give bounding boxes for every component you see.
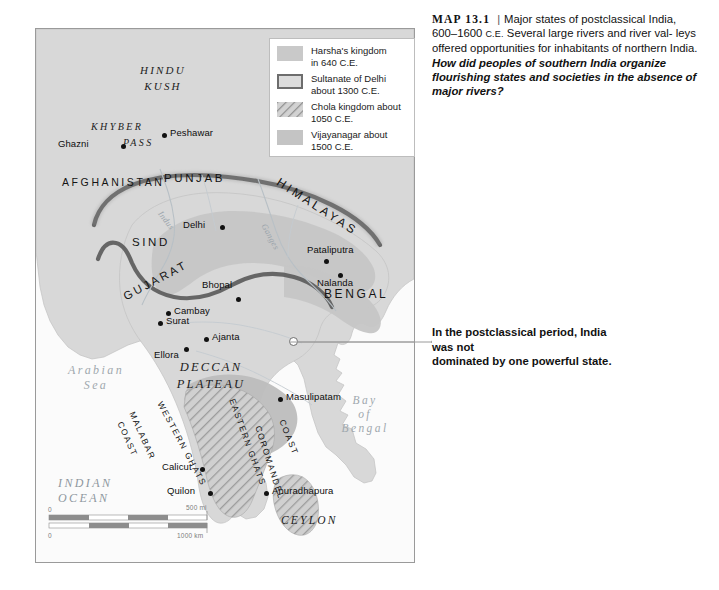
- scale-label-km-start: 0: [48, 532, 52, 539]
- caption-line4a: India.: [670, 42, 698, 54]
- caption-line2b: Several large rivers and river val-: [504, 27, 673, 39]
- city-label-ghazni: Ghazni: [58, 138, 89, 149]
- legend-text-vijayanagar: Vijayanagar about 1500 C.E.: [311, 129, 387, 152]
- legend-chola-line1: Chola kingdom about: [311, 101, 401, 113]
- map-label-khyber: KHYBER: [91, 121, 143, 132]
- map-label-afghanistan: AFGHANISTAN: [62, 176, 165, 188]
- legend-harsha-line2: in 640 C.E.: [311, 57, 387, 69]
- legend-chola-line2: 1050 C.E.: [311, 113, 401, 125]
- city-label-ellora: Ellora: [154, 349, 179, 360]
- city-label-bhopal: Bhopal: [202, 279, 232, 290]
- map-label-pass: PASS: [123, 137, 154, 148]
- city-dot-anuradhapura: [264, 491, 269, 496]
- arabian-sea-line2: Sea: [50, 378, 142, 393]
- legend-text-chola: Chola kingdom about 1050 C.E.: [311, 101, 401, 124]
- legend-harsha-line1: Harsha's kingdom: [311, 45, 387, 57]
- legend-swatch-harsha-icon: [277, 46, 303, 61]
- legend-text-sultanate: Sultanate of Delhi about 1300 C.E.: [311, 73, 386, 96]
- legend-item-sultanate: Sultanate of Delhi about 1300 C.E.: [277, 73, 408, 96]
- deccan-line1: DECCAN: [161, 359, 261, 376]
- legend-swatch-vijayanagar-icon: [277, 130, 303, 145]
- caption-era: C.E.: [485, 29, 503, 39]
- city-dot-bhopal: [236, 297, 241, 302]
- map-figure: HINDU KUSH KHYBER PASS DECCAN PLATEAU CE…: [0, 0, 719, 590]
- legend-item-chola: Chola kingdom about 1050 C.E.: [277, 101, 408, 124]
- city-label-anuradhapura: Anuradhapura: [272, 485, 333, 496]
- legend-item-harsha: Harsha's kingdom in 640 C.E.: [277, 45, 408, 68]
- legend-text-harsha: Harsha's kingdom in 640 C.E.: [311, 45, 387, 68]
- arabian-sea-line1: Arabian: [50, 363, 142, 378]
- legend-hatch-icon: [277, 102, 303, 117]
- caption-question: How did peoples of southern India organi…: [432, 57, 696, 97]
- city-dot-calicut: [200, 467, 205, 472]
- city-label-peshawar: Peshawar: [170, 127, 213, 138]
- city-label-delhi: Delhi: [183, 219, 205, 230]
- map-label-ceylon: CEYLON: [281, 514, 338, 526]
- map-label-arabian-sea: Arabian Sea: [50, 363, 142, 393]
- legend-vijayanagar-line1: Vijayanagar about: [311, 129, 387, 141]
- map-annotation: In the postclassical period, India was n…: [432, 325, 612, 369]
- city-dot-ajanta: [204, 337, 209, 342]
- legend-swatch-chola-icon: [277, 102, 303, 117]
- city-dot-ghazni: [121, 144, 126, 149]
- scale-label-miles-end: 500 mi: [186, 504, 207, 511]
- bay-line3: Bengal: [326, 421, 404, 435]
- city-label-surat: Surat: [166, 315, 189, 326]
- hindu-kush-line2: KUSH: [118, 78, 208, 94]
- map-label-indian-ocean: INDIAN OCEAN: [58, 476, 158, 506]
- city-label-calicut: Calicut: [162, 461, 192, 472]
- annotation-connector: [290, 340, 432, 343]
- legend-sultanate-line2: about 1300 C.E.: [311, 85, 386, 97]
- city-dot-quilon: [208, 491, 213, 496]
- city-dot-masulipatam: [278, 397, 283, 402]
- map-label-bengal: BENGAL: [324, 287, 388, 301]
- scale-label-miles-start: 0: [48, 506, 52, 513]
- deccan-line2: PLATEAU: [161, 376, 261, 393]
- city-dot-ellora: [184, 347, 189, 352]
- map-label-sind: SIND: [132, 236, 170, 248]
- legend-item-vijayanagar: Vijayanagar about 1500 C.E.: [277, 129, 408, 152]
- legend-vijayanagar-line2: 1500 C.E.: [311, 141, 387, 153]
- caption-line1: Major states of postclassical: [504, 13, 645, 25]
- caption-map-number: MAP 13.1: [432, 13, 490, 25]
- map-legend: Harsha's kingdom in 640 C.E. Sultanate o…: [269, 38, 415, 157]
- city-label-pataliputra: Pataliputra: [307, 244, 354, 255]
- city-dot-surat: [158, 321, 163, 326]
- figure-caption: MAP 13.1|Major states of postclassical I…: [432, 12, 704, 98]
- city-label-masulipatam: Masulipatam: [286, 391, 341, 402]
- city-dot-delhi: [220, 225, 225, 230]
- city-dot-peshawar: [162, 133, 167, 138]
- scale-label-km-end: 1000 km: [177, 532, 203, 539]
- annotation-line1: In the postclassical period, India was n…: [432, 325, 612, 354]
- legend-swatch-sultanate-icon: [277, 74, 303, 89]
- map-label-deccan-plateau: DECCAN PLATEAU: [161, 359, 261, 393]
- bay-line2: of: [326, 407, 404, 421]
- map-label-punjab: PUNJAB: [164, 172, 225, 184]
- city-label-quilon: Quilon: [167, 485, 195, 496]
- legend-sultanate-line1: Sultanate of Delhi: [311, 73, 386, 85]
- hindu-kush-line1: HINDU: [118, 62, 208, 78]
- city-label-ajanta: Ajanta: [212, 331, 240, 342]
- city-dot-pataliputra: [324, 259, 329, 264]
- indian-ocean-line1: INDIAN: [58, 476, 158, 491]
- city-label-nalanda: Nalanda: [317, 277, 353, 288]
- caption-divider: |: [490, 13, 504, 25]
- indian-ocean-line2: OCEAN: [58, 491, 158, 506]
- annotation-line2: dominated by one powerful state.: [432, 354, 612, 369]
- map-label-hindu-kush: HINDU KUSH: [118, 62, 208, 94]
